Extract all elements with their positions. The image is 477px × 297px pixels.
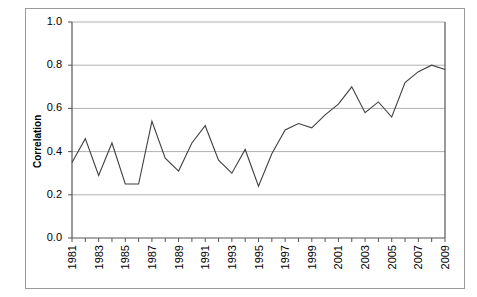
x-tick-label: 1999 bbox=[306, 245, 319, 269]
correlation-series-line bbox=[72, 65, 445, 186]
y-tick-label: 1.0 bbox=[36, 15, 62, 27]
y-tick-label: 0.8 bbox=[36, 58, 62, 70]
x-tick-mark-group bbox=[72, 238, 445, 242]
x-tick-label: 1981 bbox=[66, 245, 79, 269]
gridline-group bbox=[72, 22, 445, 195]
x-tick-label: 2009 bbox=[439, 245, 452, 269]
y-tick-label: 0.0 bbox=[36, 231, 62, 243]
x-tick-label: 1993 bbox=[226, 245, 239, 269]
x-tick-label: 1987 bbox=[146, 245, 159, 269]
x-tick-label: 1995 bbox=[253, 245, 266, 269]
x-tick-label: 2003 bbox=[359, 245, 372, 269]
x-tick-label: 2007 bbox=[412, 245, 425, 269]
x-tick-label: 1985 bbox=[119, 245, 132, 269]
x-tick-label: 2005 bbox=[386, 245, 399, 269]
x-tick-label: 2001 bbox=[332, 245, 345, 269]
x-tick-label: 1983 bbox=[93, 245, 106, 269]
figure-canvas: Correlation 1.00.80.60.40.20.0 198119831… bbox=[0, 0, 477, 297]
x-tick-label: 1997 bbox=[279, 245, 292, 269]
y-tick-label: 0.4 bbox=[36, 145, 62, 157]
x-tick-label: 1989 bbox=[173, 245, 186, 269]
y-tick-label: 0.6 bbox=[36, 101, 62, 113]
y-tick-label: 0.2 bbox=[36, 188, 62, 200]
x-tick-label: 1991 bbox=[199, 245, 212, 269]
